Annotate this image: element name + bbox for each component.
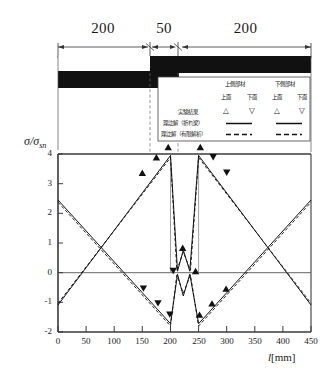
arrow-m2 — [170, 45, 176, 49]
legend-sub-header-lower-top: 上面 — [266, 95, 288, 100]
y-tick-label-m1: -1 — [26, 296, 52, 306]
dim-label-right: 200 — [180, 20, 311, 37]
legend-sub-header-upper-top: 上面 — [215, 95, 237, 100]
plot-frame — [58, 154, 311, 332]
figure-stress-distribution: 200 50 200 上側部材 下側部材 上面 下面 上面 下面 実験結果 理訖… — [0, 0, 327, 374]
x-tick-label-150: 150 — [131, 336, 153, 346]
legend-row-label-theory-broken-beam: 理訖解（折れ梁） — [163, 121, 203, 126]
x-tick-label-300: 300 — [216, 336, 238, 346]
arrow-m1 — [152, 45, 158, 49]
x-tick-label-0: 0 — [48, 336, 68, 346]
x-tick-label-450: 450 — [300, 336, 322, 346]
theory-upper-face — [58, 156, 311, 306]
dimension-extension-ticks — [58, 42, 311, 58]
legend-row-label-experiment: 実験結果 — [178, 110, 198, 115]
marker-down — [223, 170, 230, 176]
x-tick-label-100: 100 — [103, 336, 125, 346]
y-tick-label-m2: -2 — [26, 326, 52, 336]
marker-up — [208, 300, 215, 306]
x-axis-title: l[mm] — [268, 351, 296, 363]
marker-up — [165, 144, 172, 150]
fem-lower-face — [58, 202, 311, 326]
arrow-l1 — [58, 45, 64, 49]
x-tick-label-50: 50 — [76, 336, 96, 346]
y-tick-label-3: 3 — [30, 178, 52, 188]
legend-marker-upper-bottom: ▽ — [241, 107, 263, 115]
legend-sub-header-lower-bottom: 下面 — [291, 95, 313, 100]
marker-up — [139, 170, 146, 176]
legend-sub-header-upper-bottom: 下面 — [241, 95, 263, 100]
marker-up — [192, 268, 199, 274]
arrow-r2 — [305, 45, 311, 49]
legend-marker-upper-top: △ — [215, 107, 237, 115]
legend-group-header-lower: 下側部材 — [256, 82, 314, 87]
fem-upper-face — [58, 158, 311, 304]
marker-up — [153, 154, 160, 160]
legend-marker-lower-top: △ — [266, 107, 288, 115]
marker-up — [197, 144, 204, 150]
marker-down — [154, 300, 161, 306]
y-tick-label-4: 4 — [30, 148, 52, 158]
x-tick-label-350: 350 — [244, 336, 266, 346]
curve-theory-solid — [58, 156, 311, 324]
x-tick-label-250: 250 — [188, 336, 210, 346]
dim-label-left: 200 — [58, 20, 148, 37]
y-tick-label-1: 1 — [30, 237, 52, 247]
legend-marker-lower-bottom: ▽ — [291, 107, 313, 115]
y-tick-label-2: 2 — [30, 207, 52, 217]
theory-lower-face — [58, 200, 311, 324]
x-axis-ticks — [58, 326, 311, 332]
arrow-l2 — [142, 45, 148, 49]
marker-up — [179, 245, 186, 251]
beam-upper-member — [150, 56, 311, 73]
marker-up — [222, 285, 229, 291]
x-tick-label-200: 200 — [159, 336, 181, 346]
dim-label-mid: 50 — [148, 20, 180, 37]
x-tick-label-400: 400 — [272, 336, 294, 346]
y-tick-label-0: 0 — [30, 267, 52, 277]
marker-down — [210, 154, 217, 160]
legend-row-label-theory-fem: 理訖解（有限解析） — [161, 132, 206, 137]
arrow-r1 — [182, 45, 188, 49]
